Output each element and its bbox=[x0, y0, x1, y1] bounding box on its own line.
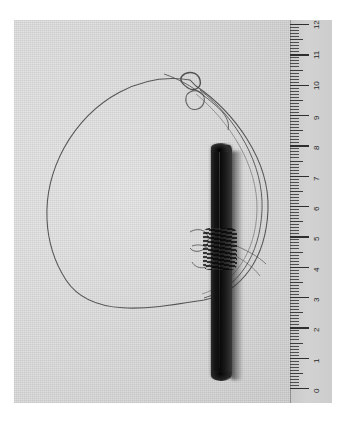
ruler-tick-minor bbox=[290, 203, 299, 204]
ruler-tick-minor bbox=[290, 91, 299, 92]
ruler-tick-minor bbox=[290, 63, 299, 64]
ruler-tick-minor bbox=[290, 376, 299, 377]
ruler-tick-minor bbox=[290, 330, 299, 331]
ruler-tick-minor bbox=[290, 154, 299, 155]
ruler-tick-minor bbox=[290, 385, 299, 386]
ruler-tick-minor bbox=[290, 118, 299, 119]
ruler-tick-minor bbox=[290, 324, 299, 325]
ruler-tick-minor bbox=[290, 291, 299, 292]
ruler-tick-major bbox=[290, 236, 309, 237]
ruler-tick-minor bbox=[290, 294, 299, 295]
ruler-tick-minor bbox=[290, 185, 299, 186]
ruler-tick-major bbox=[290, 115, 309, 116]
ruler-tick-minor bbox=[290, 191, 303, 192]
ruler-number-2: 2 bbox=[313, 328, 321, 332]
ruler-tick-minor bbox=[290, 33, 299, 34]
ruler-tick-minor bbox=[290, 197, 299, 198]
ruler-tick-minor bbox=[290, 66, 299, 67]
rod-bottom-end bbox=[211, 371, 232, 381]
ruler-tick-minor bbox=[290, 270, 299, 271]
ruler-tick-minor bbox=[290, 252, 303, 253]
ruler-tick-minor bbox=[290, 27, 299, 28]
ruler-tick-minor bbox=[290, 188, 299, 189]
ruler-tick-minor bbox=[290, 51, 299, 52]
ruler-tick-minor bbox=[290, 36, 299, 37]
wire-knot-lower bbox=[186, 91, 204, 110]
ruler-tick-minor bbox=[290, 112, 299, 113]
ruler-tick-major bbox=[290, 388, 309, 389]
wire-loop bbox=[14, 20, 332, 403]
ruler-tick-major bbox=[290, 327, 309, 328]
ruler-tick-minor bbox=[290, 161, 303, 162]
ruler-tick-major bbox=[290, 206, 309, 207]
ruler-tick-minor bbox=[290, 318, 299, 319]
ruler-tick-minor bbox=[290, 45, 299, 46]
ruler-tick-minor bbox=[290, 139, 299, 140]
ruler-number-0: 0 bbox=[313, 389, 321, 393]
ruler-tick-minor bbox=[290, 361, 299, 362]
ruler-number-7: 7 bbox=[313, 176, 321, 180]
ruler-tick-minor bbox=[290, 94, 299, 95]
ruler-tick-minor bbox=[290, 364, 299, 365]
ruler-tick-minor bbox=[290, 312, 303, 313]
artifact-photograph: 0123456789101112 bbox=[14, 20, 332, 403]
ruler-tick-minor bbox=[290, 242, 299, 243]
ruler-tick-minor bbox=[290, 200, 299, 201]
ruler-tick-minor bbox=[290, 148, 299, 149]
ruler-tick-major bbox=[290, 267, 309, 268]
ruler-tick-minor bbox=[290, 73, 299, 74]
ruler-tick-major bbox=[290, 54, 309, 55]
ruler-tick-minor bbox=[290, 339, 299, 340]
ruler-tick-minor bbox=[290, 218, 299, 219]
ruler-tick-minor bbox=[290, 121, 299, 122]
ruler-tick-minor bbox=[290, 373, 303, 374]
ruler-tick-minor bbox=[290, 336, 299, 337]
ruler-tick-minor bbox=[290, 82, 299, 83]
ruler-number-12: 12 bbox=[313, 21, 321, 30]
ruler-tick-major bbox=[290, 85, 309, 86]
ruler-tick-minor bbox=[290, 279, 299, 280]
photo-page: 0123456789101112 bbox=[0, 0, 347, 437]
ruler-tick-minor bbox=[290, 239, 299, 240]
ruler-tick-minor bbox=[290, 103, 299, 104]
ruler-tick-minor bbox=[290, 355, 299, 356]
ruler-tick-minor bbox=[290, 97, 299, 98]
ruler-tick-minor bbox=[290, 130, 303, 131]
ruler-tick-minor bbox=[290, 321, 299, 322]
ruler-tick-minor bbox=[290, 346, 299, 347]
ruler-number-10: 10 bbox=[313, 81, 321, 90]
rod-cord-binding bbox=[203, 228, 237, 270]
ruler-tick-minor bbox=[290, 194, 299, 195]
ruler-tick-minor bbox=[290, 42, 299, 43]
ruler-tick-minor bbox=[290, 367, 299, 368]
ruler-tick-minor bbox=[290, 30, 299, 31]
ruler-tick-minor bbox=[290, 48, 299, 49]
ruler-tick-minor bbox=[290, 303, 299, 304]
ruler-tick-minor bbox=[290, 133, 299, 134]
ruler-number-1: 1 bbox=[313, 358, 321, 362]
ruler-tick-minor bbox=[290, 157, 299, 158]
ruler-tick-minor bbox=[290, 306, 299, 307]
ruler-tick-minor bbox=[290, 379, 299, 380]
ruler-tick-major bbox=[290, 176, 309, 177]
wire-tail bbox=[164, 74, 228, 130]
ruler-tick-minor bbox=[290, 106, 299, 107]
ruler-tick-minor bbox=[290, 333, 299, 334]
ruler-tick-minor bbox=[290, 182, 299, 183]
ruler-tick-minor bbox=[290, 255, 299, 256]
ruler-tick-minor bbox=[290, 309, 299, 310]
ruler-tick-minor bbox=[290, 76, 299, 77]
ruler-tick-minor bbox=[290, 209, 299, 210]
ruler-tick-minor bbox=[290, 276, 299, 277]
ruler-tick-minor bbox=[290, 70, 303, 71]
ruler-tick-minor bbox=[290, 233, 299, 234]
ruler-tick-minor bbox=[290, 151, 299, 152]
ruler-tick-minor bbox=[290, 258, 299, 259]
ruler-tick-major bbox=[290, 145, 309, 146]
ruler-tick-minor bbox=[290, 282, 303, 283]
ruler-tick-minor bbox=[290, 248, 299, 249]
ruler-tick-minor bbox=[290, 343, 303, 344]
ruler-number-5: 5 bbox=[313, 237, 321, 241]
ruler-tick-minor bbox=[290, 79, 299, 80]
ruler-tick-minor bbox=[290, 315, 299, 316]
